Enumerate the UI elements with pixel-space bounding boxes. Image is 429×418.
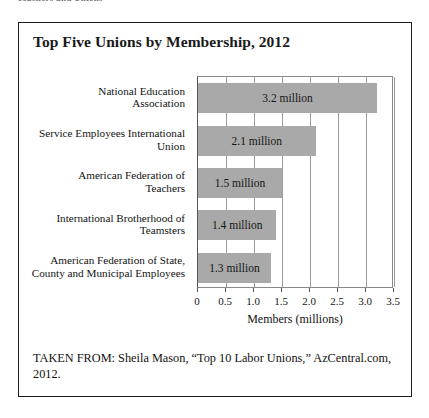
plot-area: 3.2 million2.1 million1.5 million1.4 mil… [197,76,393,288]
category-label: American Federation ofTeachers [17,169,185,194]
x-tick-mark [393,288,394,292]
category-label-line: Service Employees International [17,127,185,140]
x-tick-label: 1.0 [246,295,260,307]
bar-value-label: 1.4 million [198,219,276,231]
category-label-line: International Brotherhood of [17,212,185,225]
x-tick-mark [365,288,366,292]
bar: 3.2 million [198,83,377,113]
bar: 1.5 million [198,168,282,198]
x-axis-title: Members (millions) [197,312,393,327]
category-label: American Federation of State,County and … [17,254,185,279]
bar: 2.1 million [198,126,316,156]
category-label-line: Teamsters [17,224,185,237]
page-running-header: Teachers and Unions [17,0,137,3]
category-label: Service Employees InternationalUnion [17,127,185,152]
x-tick-label: 2.0 [302,295,316,307]
bar-value-label: 2.1 million [198,135,316,147]
source-attribution: TAKEN FROM: Sheila Mason, “Top 10 Labor … [33,350,397,382]
x-tick-label: 2.5 [330,295,344,307]
x-tick-label: 0.5 [218,295,232,307]
x-tick-label: 0 [194,295,200,307]
x-tick-label: 3.5 [386,295,400,307]
category-label-line: National Education [17,85,185,98]
category-label: National EducationAssociation [17,85,185,110]
bar-value-label: 1.3 million [198,262,271,274]
category-label-line: Union [17,140,185,153]
x-tick-mark [281,288,282,292]
x-tick-label: 3.0 [358,295,372,307]
gridline [394,77,395,287]
figure-frame: Top Five Unions by Membership, 2012 Nati… [18,22,412,397]
x-tick-label: 1.5 [274,295,288,307]
x-tick-mark [225,288,226,292]
bar-value-label: 1.5 million [198,177,282,189]
figure-title: Top Five Unions by Membership, 2012 [33,33,290,51]
bar: 1.4 million [198,210,276,240]
category-label-line: Teachers [17,182,185,195]
bar-chart: National EducationAssociationService Emp… [19,68,413,333]
category-label: International Brotherhood ofTeamsters [17,212,185,237]
bars-layer: 3.2 million2.1 million1.5 million1.4 mil… [198,77,392,287]
category-axis-labels: National EducationAssociationService Emp… [19,76,191,288]
category-label-line: American Federation of [17,169,185,182]
x-tick-mark [337,288,338,292]
x-tick-mark [197,288,198,292]
x-tick-mark [309,288,310,292]
bar-value-label: 3.2 million [198,92,377,104]
category-label-line: Association [17,97,185,110]
category-label-line: County and Municipal Employees [17,267,185,280]
bar: 1.3 million [198,253,271,283]
category-label-line: American Federation of State, [17,254,185,267]
x-tick-mark [253,288,254,292]
